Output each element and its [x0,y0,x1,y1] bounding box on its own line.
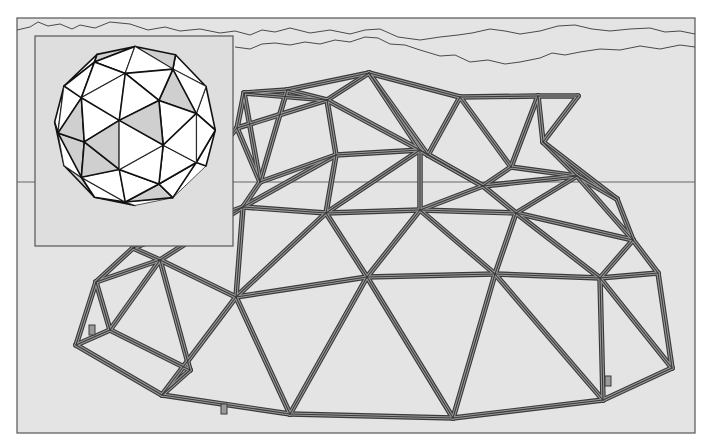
strut-connector [89,325,95,335]
polyhedron-inset [35,36,233,246]
geodesic-dome-illustration [0,0,711,442]
strut-connector [605,376,611,386]
strut-connector [221,404,227,414]
